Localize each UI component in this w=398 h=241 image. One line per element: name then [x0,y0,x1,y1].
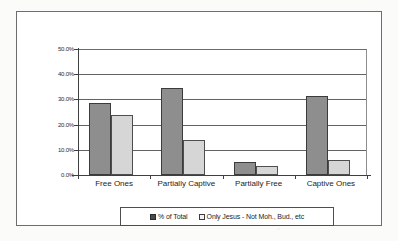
bar [111,115,133,175]
bar [161,88,183,175]
y-axis-tick-mark [74,99,79,100]
x-axis-line [72,175,371,176]
legend-label: % of Total [158,213,188,220]
bar [234,162,256,175]
bar [306,96,328,175]
legend-label: Only Jesus - Not Moh., Bud., etc [207,213,305,220]
chart-frame: 50.0%40.0%30.0%20.0%10.0%0.0% Free OnesP… [16,11,382,226]
y-axis-tick-label: 0.0% [40,172,74,178]
y-axis-tick-mark [74,150,79,151]
legend-swatch-percent-of-total [150,214,156,220]
bar [256,166,278,175]
y-axis-tick-mark [74,49,79,50]
bar [328,160,350,175]
y-axis-tick-label: 10.0% [40,147,74,153]
bar-series-container [78,49,367,175]
legend-item: Only Jesus - Not Moh., Bud., etc [199,213,305,220]
y-axis-tick-label: 40.0% [40,71,74,77]
bar-group [295,49,367,175]
y-axis-tick-mark [74,125,79,126]
x-axis-tick-mark [295,175,296,179]
legend-swatch-only-jesus [199,214,205,220]
y-axis-tick-label: 30.0% [40,96,74,102]
x-axis-category-label: Captive Ones [295,179,367,188]
x-axis-tick-mark [150,175,151,179]
y-axis-tick-label: 20.0% [40,122,74,128]
x-axis-tick-mark [78,175,79,179]
bar-group [78,49,150,175]
x-axis-tick-mark [367,175,368,179]
x-axis-category-label: Partially Captive [150,179,222,188]
y-axis-tick-labels: 50.0%40.0%30.0%20.0%10.0%0.0% [35,12,74,241]
bar [183,140,205,175]
bar-group [150,49,222,175]
bar-group [223,49,295,175]
y-axis-tick-label: 50.0% [40,46,74,52]
x-axis-tick-mark [223,175,224,179]
x-axis-category-label: Partially Free [223,179,295,188]
legend-item: % of Total [150,213,188,220]
chart-page: 50.0%40.0%30.0%20.0%10.0%0.0% Free OnesP… [0,0,398,241]
bar [89,103,111,175]
x-axis-category-label: Free Ones [78,179,150,188]
y-axis-tick-mark [74,74,79,75]
chart-legend: % of Total Only Jesus - Not Moh., Bud., … [120,207,334,226]
